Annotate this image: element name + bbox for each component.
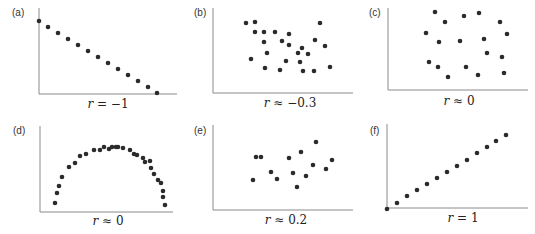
data-point <box>415 188 420 193</box>
data-point <box>446 75 451 80</box>
data-point <box>136 79 141 84</box>
data-point <box>161 195 166 200</box>
data-point <box>254 155 259 160</box>
data-point <box>313 38 318 43</box>
data-point <box>106 61 111 66</box>
data-point <box>152 172 157 177</box>
data-point <box>121 146 126 151</box>
data-point <box>273 30 278 35</box>
data-point <box>161 189 166 194</box>
data-point <box>159 181 164 186</box>
axes-a <box>39 8 177 94</box>
data-point <box>253 30 258 35</box>
data-point <box>476 73 481 78</box>
data-point <box>251 178 256 183</box>
scatter-panel-d <box>40 126 173 212</box>
data-point <box>306 52 311 57</box>
data-point <box>385 207 390 212</box>
data-point <box>295 185 300 190</box>
data-point <box>312 69 317 74</box>
data-point <box>291 171 296 176</box>
data-point <box>60 175 65 180</box>
caption-e: r ≈ 0.2 <box>226 213 346 227</box>
data-point <box>445 170 450 175</box>
data-point <box>433 10 438 15</box>
data-point <box>275 177 280 182</box>
data-point <box>482 37 487 42</box>
data-point <box>475 151 480 156</box>
caption-a: r = −1 <box>48 97 168 111</box>
data-point <box>458 39 463 44</box>
axes-e <box>213 125 353 210</box>
data-point <box>116 67 121 72</box>
data-point <box>155 91 160 96</box>
data-point <box>126 73 131 78</box>
data-point <box>311 163 316 168</box>
data-point <box>395 201 400 206</box>
data-point <box>86 49 91 54</box>
data-point <box>425 182 430 187</box>
data-point <box>249 57 254 62</box>
data-point <box>299 150 304 155</box>
data-point <box>76 43 81 48</box>
data-point <box>116 145 121 150</box>
data-point <box>55 191 60 196</box>
data-point <box>405 194 410 199</box>
caption-value: ≈ 0.2 <box>270 213 307 227</box>
data-point <box>424 31 429 36</box>
data-point <box>262 30 267 35</box>
data-point <box>462 14 467 19</box>
panel-label-c: (c) <box>369 7 381 18</box>
data-point <box>318 21 323 26</box>
data-point <box>465 158 470 163</box>
data-point <box>263 66 268 71</box>
panel-label-d: (d) <box>13 125 25 136</box>
data-point <box>148 159 153 164</box>
caption-value: ≈ 0 <box>449 94 474 108</box>
data-point <box>324 167 329 172</box>
data-point <box>300 46 305 51</box>
panel-label-b: (b) <box>194 7 206 18</box>
panel-label-f: (f) <box>370 125 379 136</box>
caption-value: ≈ 0 <box>98 214 123 228</box>
scatter-panel-f <box>385 124 528 211</box>
caption-value: = 1 <box>453 211 478 225</box>
data-point <box>330 158 335 163</box>
data-point <box>163 203 168 208</box>
data-point <box>46 25 51 30</box>
data-point <box>477 11 482 16</box>
data-point <box>56 31 61 36</box>
data-point <box>287 156 292 161</box>
data-point <box>278 68 283 73</box>
data-point <box>280 39 285 44</box>
data-point <box>437 40 442 45</box>
data-point <box>287 43 292 48</box>
scatter-panel-a <box>37 8 177 95</box>
data-point <box>262 40 267 45</box>
data-point <box>128 148 133 153</box>
data-point <box>244 21 249 26</box>
data-point <box>502 71 507 76</box>
data-point <box>253 20 258 25</box>
data-point <box>436 65 441 70</box>
data-point <box>323 44 328 49</box>
data-point <box>265 51 270 56</box>
data-point <box>78 154 83 159</box>
caption-value: ≈ −0.3 <box>269 96 316 110</box>
data-point <box>328 65 333 70</box>
data-point <box>110 145 115 150</box>
data-point <box>464 65 469 70</box>
data-point <box>498 20 503 25</box>
panel-label-e: (e) <box>194 125 206 136</box>
data-point <box>96 55 101 60</box>
data-point <box>443 20 448 25</box>
data-point <box>143 160 148 165</box>
caption-b: r ≈ −0.3 <box>230 96 350 110</box>
data-point <box>98 148 103 153</box>
data-point <box>301 69 306 74</box>
data-point <box>314 140 319 145</box>
data-point <box>505 32 510 37</box>
data-point <box>37 19 42 24</box>
axes-c <box>388 8 528 90</box>
caption-f: r = 1 <box>403 211 523 225</box>
